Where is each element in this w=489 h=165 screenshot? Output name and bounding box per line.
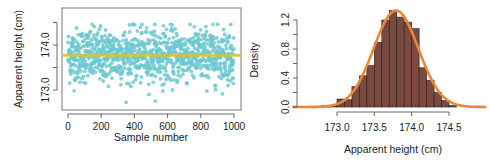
svg-text:0.4: 0.4 — [280, 71, 291, 85]
scatter-panel: 173.0174.0 02004006008001000 Sample numb… — [12, 8, 246, 143]
histogram-panel: 0.00.40.81.2 173.0173.5174.0174.5 Appare… — [248, 11, 486, 155]
svg-text:0.0: 0.0 — [280, 100, 291, 114]
svg-text:1000: 1000 — [223, 121, 246, 132]
scatter-x-label: Sample number — [114, 131, 189, 143]
svg-text:173.0: 173.0 — [40, 77, 51, 102]
svg-text:200: 200 — [93, 121, 110, 132]
histogram-x-label: Apparent height (cm) — [344, 143, 442, 155]
histogram-y-axis: 0.00.40.81.2 — [280, 13, 297, 114]
scatter-x-axis: 02004006008001000 — [65, 114, 245, 132]
histogram-bars — [315, 11, 457, 107]
svg-text:0.8: 0.8 — [280, 42, 291, 56]
svg-text:1.2: 1.2 — [280, 13, 291, 27]
svg-text:800: 800 — [192, 121, 209, 132]
svg-text:174.5: 174.5 — [436, 122, 461, 133]
scatter-y-label: Apparent height (cm) — [12, 10, 24, 108]
scatter-points — [66, 22, 236, 104]
figure: 173.0174.0 02004006008001000 Sample numb… — [0, 0, 489, 165]
histogram-x-axis: 173.0173.5174.0174.5 — [324, 112, 461, 133]
svg-text:173.0: 173.0 — [324, 122, 349, 133]
scatter-y-axis: 173.0174.0 — [40, 23, 57, 103]
svg-text:174.0: 174.0 — [40, 32, 51, 57]
svg-text:0: 0 — [65, 121, 71, 132]
histogram-y-label: Density — [248, 42, 260, 78]
svg-text:174.0: 174.0 — [399, 122, 424, 133]
svg-text:173.5: 173.5 — [362, 122, 387, 133]
